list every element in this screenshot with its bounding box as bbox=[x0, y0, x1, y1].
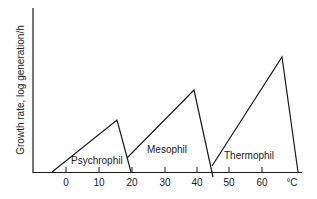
label-thermophil: Thermophil bbox=[224, 150, 274, 161]
label-psychrophil: Psychrophil bbox=[71, 155, 123, 166]
x-ticks bbox=[66, 167, 262, 172]
tick-label-0: 0 bbox=[63, 177, 69, 188]
tick-label-10: 10 bbox=[93, 177, 105, 188]
tick-label-30: 30 bbox=[159, 177, 171, 188]
y-axis-label: Growth rate, log generation/h bbox=[15, 25, 26, 155]
tick-label-20: 20 bbox=[126, 177, 138, 188]
x-tick-labels: 0 10 20 30 40 50 60 °C bbox=[63, 177, 297, 188]
curve-mesophil bbox=[127, 90, 213, 177]
tick-label-40: 40 bbox=[191, 177, 203, 188]
growth-rate-chart: 0 10 20 30 40 50 60 °C Growth rate, log … bbox=[0, 0, 317, 199]
tick-label-60: 60 bbox=[256, 177, 268, 188]
tick-label-50: 50 bbox=[223, 177, 235, 188]
label-mesophil: Mesophil bbox=[147, 144, 187, 155]
x-unit-label: °C bbox=[286, 177, 297, 188]
